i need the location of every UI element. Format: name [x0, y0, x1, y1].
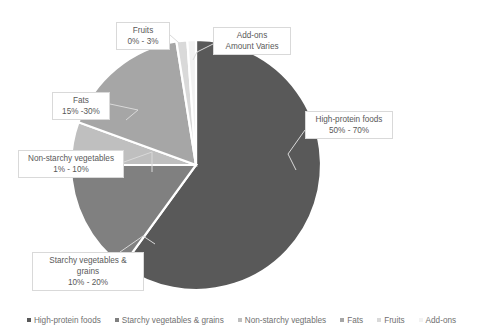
legend-item[interactable]: High-protein foods [27, 316, 101, 325]
chart-legend: High-protein foodsStarchy vegetables & g… [0, 311, 483, 329]
callout-starchy-vegetables-grains-name-line2: grains [37, 266, 139, 277]
callout-non-starchy-vegetables-value: 1% - 10% [23, 164, 119, 175]
legend-swatch-icon [238, 318, 242, 322]
legend-item[interactable]: Fats [340, 316, 363, 325]
legend-item[interactable]: Starchy vegetables & grains [115, 316, 224, 325]
legend-swatch-icon [377, 318, 381, 322]
callout-high-protein-foods: High-protein foods 50% - 70% [305, 111, 393, 139]
legend-swatch-icon [27, 318, 31, 322]
callout-add-ons: Add-ons Amount Varies [213, 27, 291, 55]
callout-starchy-vegetables-grains: Starchy vegetables & grains 10% - 20% [32, 252, 144, 291]
callout-starchy-vegetables-grains-value: 10% - 20% [37, 277, 139, 288]
legend-item[interactable]: Add-ons [419, 316, 457, 325]
callout-fats: Fats 15% -30% [52, 92, 110, 120]
legend-swatch-icon [115, 318, 119, 322]
legend-item-label: Non-starchy vegtables [245, 316, 326, 325]
callout-add-ons-name: Add-ons [218, 30, 286, 41]
legend-item-label: High-protein foods [34, 316, 101, 325]
callout-fruits-value: 0% - 3% [121, 36, 165, 47]
callout-non-starchy-vegetables: Non-starchy vegetables 1% - 10% [18, 150, 124, 178]
pie-chart: Fruits 0% - 3% Add-ons Amount Varies Hig… [0, 0, 483, 334]
callout-add-ons-value: Amount Varies [218, 41, 286, 52]
callout-fats-value: 15% -30% [57, 106, 105, 117]
legend-item-label: Starchy vegetables & grains [122, 316, 224, 325]
callout-starchy-vegetables-grains-name-line1: Starchy vegetables & [37, 255, 139, 266]
legend-item-label: Fruits [384, 316, 404, 325]
callout-fats-name: Fats [57, 95, 105, 106]
legend-swatch-icon [340, 318, 344, 322]
callout-fruits-name: Fruits [121, 25, 165, 36]
callout-high-protein-foods-name: High-protein foods [310, 114, 388, 125]
callout-non-starchy-vegetables-name: Non-starchy vegetables [23, 153, 119, 164]
callout-high-protein-foods-value: 50% - 70% [310, 125, 388, 136]
callout-fruits: Fruits 0% - 3% [116, 22, 170, 50]
legend-item-label: Fats [347, 316, 363, 325]
legend-item[interactable]: Non-starchy vegtables [238, 316, 326, 325]
legend-item[interactable]: Fruits [377, 316, 404, 325]
legend-item-label: Add-ons [426, 316, 457, 325]
legend-swatch-icon [419, 318, 423, 322]
